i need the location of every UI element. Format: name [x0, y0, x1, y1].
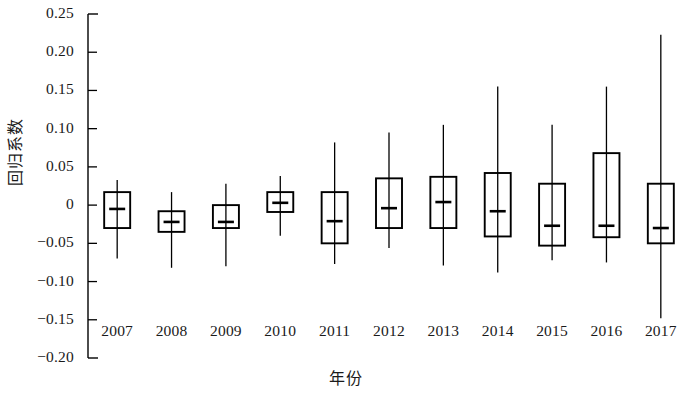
x-tick-label: 2013 [413, 322, 473, 340]
x-axis-title: 年份 [0, 365, 692, 389]
axes [88, 14, 98, 358]
y-tick-label: −0.15 [0, 310, 74, 328]
x-tick-label: 2012 [359, 322, 419, 340]
x-tick-label: 2009 [196, 322, 256, 340]
y-tick-label: −0.10 [0, 272, 74, 290]
x-tick-label: 2014 [468, 322, 528, 340]
y-tick-label: 0.25 [0, 4, 74, 22]
y-tick-label: 0.20 [0, 42, 74, 60]
boxplot-figure: 0.250.200.150.100.050−0.05−0.10−0.15−0.2… [0, 0, 692, 395]
x-tick-label: 2017 [631, 322, 691, 340]
x-tick-label: 2007 [87, 322, 147, 340]
x-tick-label: 2008 [142, 322, 202, 340]
y-tick-label: −0.05 [0, 233, 74, 251]
x-tick-label: 2011 [305, 322, 365, 340]
box-series [104, 35, 674, 319]
x-tick-label: 2015 [522, 322, 582, 340]
y-axis-title: 回归系数 [2, 92, 26, 212]
x-tick-label: 2016 [576, 322, 636, 340]
x-tick-label: 2010 [250, 322, 310, 340]
y-tick-label: −0.20 [0, 348, 74, 366]
